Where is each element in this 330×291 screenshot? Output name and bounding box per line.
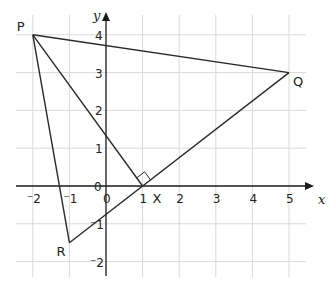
x-tick-label: 1	[140, 192, 148, 206]
segment-RP	[33, 35, 70, 243]
x-tick-label: ⁻1	[63, 192, 77, 206]
x-axis-label: x	[318, 192, 326, 207]
point-label-p: P	[17, 19, 25, 34]
y-tick-label: 0	[94, 180, 102, 194]
segment-PQ	[33, 35, 289, 73]
point-label-q: Q	[293, 74, 303, 89]
y-axis-arrow-icon	[102, 12, 110, 21]
x-tick-label: ⁻2	[27, 192, 41, 206]
x-tick-label: 3	[213, 192, 221, 206]
y-tick-label: 4	[95, 29, 103, 43]
x-tick-label: 2	[176, 192, 184, 206]
diagram-canvas: xy⁻2⁻1012345⁻2⁻101234PQRX	[0, 0, 330, 291]
triangle-pqr	[33, 35, 289, 243]
coordinate-diagram: xy⁻2⁻1012345⁻2⁻101234PQRX	[0, 0, 330, 291]
x-tick-label: 5	[286, 192, 294, 206]
y-tick-label: ⁻2	[90, 256, 104, 270]
x-tick-label: 0	[103, 192, 111, 206]
point-label-x: X	[153, 191, 162, 206]
y-axis-label: y	[92, 8, 101, 23]
x-tick-label: 4	[249, 192, 257, 206]
y-tick-label: 2	[95, 104, 103, 118]
axes	[16, 12, 314, 276]
x-axis-arrow-icon	[305, 182, 314, 190]
y-tick-label: 1	[95, 142, 103, 156]
right-angle-marker	[137, 172, 151, 180]
y-tick-label: 3	[95, 67, 103, 81]
y-tick-label: ⁻1	[90, 218, 104, 232]
point-label-r: R	[56, 244, 65, 259]
labels: xy⁻2⁻1012345⁻2⁻101234PQRX	[17, 8, 326, 270]
